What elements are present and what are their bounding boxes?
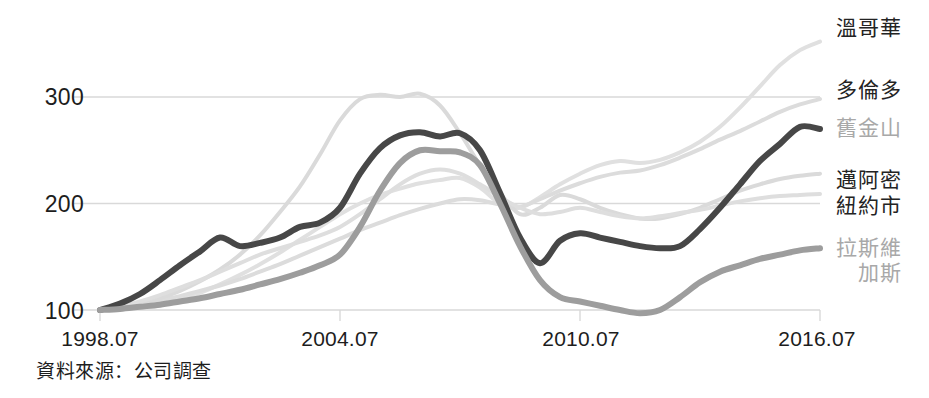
x-tick-label-2004: 2004.07 [275,327,405,351]
series-label-las-vegas-line1: 拉斯維 [836,236,902,261]
axis-ticks [100,310,820,321]
x-tick-label-2010: 2010.07 [516,327,646,351]
x-tick-label-2016: 2016.07 [752,327,882,351]
x-tick-label-1998: 1998.07 [35,327,165,351]
source-note: 資料來源：公司調查 [36,356,212,383]
series-label-las-vegas-line2: 加斯 [836,261,902,286]
y-tick-label-200: 200 [22,191,84,218]
y-tick-label-300: 300 [22,84,84,111]
series-label-vancouver: 溫哥華 [836,16,902,41]
series-paths [100,42,820,314]
series-label-toronto: 多倫多 [836,78,902,103]
series-label-san-francisco: 舊金山 [836,116,902,141]
chart-container: 300 200 100 1998.07 2004.07 2010.07 2016… [0,0,929,398]
y-tick-label-100: 100 [22,298,84,325]
series-label-new-york: 紐約市 [836,194,902,219]
series-label-miami: 邁阿密 [836,168,902,193]
